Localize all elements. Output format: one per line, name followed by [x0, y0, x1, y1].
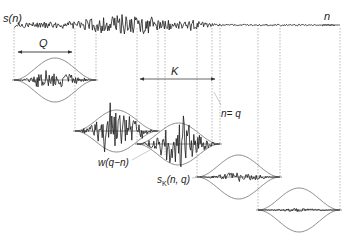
window-segment-4: [195, 155, 282, 199]
hop-label: K: [171, 65, 179, 77]
window-segment-5: [256, 188, 342, 232]
input-signal-row: [14, 15, 335, 35]
position-label: n= q: [221, 108, 241, 119]
windowed-signal: [137, 116, 219, 167]
signal-waveform: [14, 15, 335, 35]
segment-label-args: (n, q): [167, 174, 190, 185]
window-segment-1: [12, 58, 98, 102]
windowed-segments: [12, 58, 342, 232]
window-segment-3: [135, 116, 222, 167]
windowing-diagram: s(n) n Q K n= q w(q−n) sK(n, q): [0, 0, 358, 242]
window-length-label: Q: [39, 37, 48, 49]
signal-label: s(n): [3, 12, 22, 24]
window-envelope-upper: [197, 155, 280, 177]
axis-label-n: n: [324, 10, 330, 22]
window-function-label: w(q−n): [98, 157, 129, 168]
window-envelope-lower: [258, 210, 340, 232]
segment-label: sK(n, q): [157, 174, 190, 187]
window-envelope-upper: [14, 58, 96, 80]
window-envelope-upper: [258, 188, 340, 210]
window-envelope-lower: [197, 177, 280, 199]
window-leader-line: [132, 150, 150, 160]
